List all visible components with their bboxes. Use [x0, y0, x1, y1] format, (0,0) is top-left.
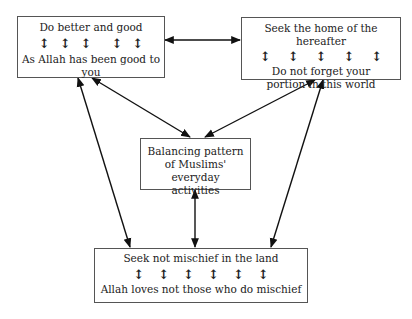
- updown-arrow-icon: ↕: [183, 268, 194, 282]
- updown-arrow-icon: ↕: [288, 50, 299, 64]
- updown-arrow-icon: ↕: [39, 37, 50, 51]
- updown-arrow-icon: ↕: [316, 50, 327, 64]
- updown-arrow-icon: ↕: [111, 37, 122, 51]
- center-label: Balancing pattern of Muslims' everyday a…: [147, 145, 244, 197]
- box-do-better-subtitle: As Allah has been good to you: [18, 53, 164, 79]
- updown-arrow-icon: ↕: [208, 268, 219, 282]
- updown-arrow-icon: ↕: [81, 37, 92, 51]
- box-hereafter-title: Seek the home of the hereafter: [242, 22, 400, 48]
- updown-arrow-icon: ↕: [260, 50, 271, 64]
- updown-arrow-icon: ↕: [371, 50, 382, 64]
- box-balancing-pattern: Balancing pattern of Muslims' everyday a…: [140, 138, 251, 190]
- box-hereafter-subtitle: Do not forget your portion in this world: [242, 65, 400, 91]
- updown-arrow-icon: ↕: [158, 268, 169, 282]
- balance-arrows: ↕ ↕ ↕ ↕ ↕: [18, 37, 164, 51]
- box-hereafter: Seek the home of the hereafter ↕ ↕ ↕ ↕ ↕…: [241, 17, 401, 80]
- box-mischief-title: Seek not mischief in the land: [95, 252, 307, 265]
- balance-arrows: ↕ ↕ ↕ ↕ ↕ ↕: [95, 268, 307, 282]
- updown-arrow-icon: ↕: [343, 50, 354, 64]
- balance-arrows: ↕ ↕ ↕ ↕ ↕: [242, 50, 400, 64]
- updown-arrow-icon: ↕: [60, 37, 71, 51]
- updown-arrow-icon: ↕: [132, 37, 143, 51]
- updown-arrow-icon: ↕: [233, 268, 244, 282]
- box-do-better-title: Do better and good: [18, 21, 164, 34]
- updown-arrow-icon: ↕: [258, 268, 269, 282]
- box-seek-not-mischief: Seek not mischief in the land ↕ ↕ ↕ ↕ ↕ …: [94, 248, 308, 303]
- box-mischief-subtitle: Allah loves not those who do mischief: [95, 283, 307, 296]
- updown-arrow-icon: ↕: [133, 268, 144, 282]
- box-do-better: Do better and good ↕ ↕ ↕ ↕ ↕ As Allah ha…: [17, 16, 165, 78]
